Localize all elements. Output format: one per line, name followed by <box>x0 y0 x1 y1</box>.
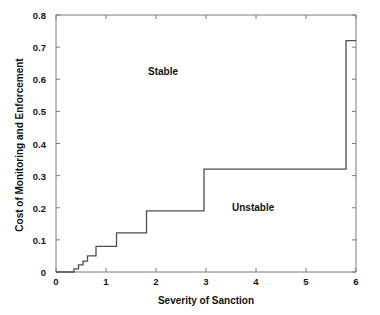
x-tick-label: 6 <box>346 276 366 287</box>
tick-marks <box>56 15 356 272</box>
chart-figure: 0.8 0.7 0.6 0.5 0.4 0.3 0.2 0.1 0 0 1 2 … <box>0 0 380 315</box>
x-tick-label: 4 <box>246 276 266 287</box>
x-tick-label: 5 <box>296 276 316 287</box>
y-tick-label: 0 <box>20 267 46 278</box>
x-tick-label: 0 <box>46 276 66 287</box>
x-tick-label: 2 <box>146 276 166 287</box>
x-axis-title: Severity of Sanction <box>158 295 254 306</box>
step-plot-svg <box>0 0 380 315</box>
y-axis-title: Cost of Monitoring and Enforcement <box>14 58 25 231</box>
y-tick-label: 0.8 <box>20 10 46 21</box>
step-curve <box>56 41 356 272</box>
annotation-unstable: Unstable <box>232 202 274 213</box>
annotation-stable: Stable <box>148 66 178 77</box>
y-axis-title-wrap: Cost of Monitoring and Enforcement <box>9 35 27 255</box>
x-tick-label: 1 <box>96 276 116 287</box>
x-tick-label: 3 <box>196 276 216 287</box>
axes-group <box>56 15 356 272</box>
x-axis-title-wrap: Severity of Sanction <box>56 290 356 308</box>
